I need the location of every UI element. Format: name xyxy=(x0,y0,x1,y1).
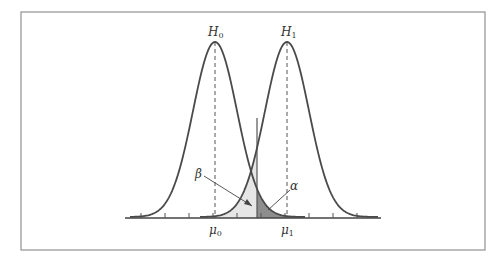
h1-label: H1 xyxy=(280,25,297,40)
mu0-label: μ0 xyxy=(209,223,222,238)
mu1-label: μ1 xyxy=(281,223,294,238)
h0-curve xyxy=(130,42,305,217)
alpha-label: α xyxy=(290,179,298,193)
beta-label: β xyxy=(194,167,202,181)
hypothesis-diagram: H0 H1 β α μ0 μ1 xyxy=(0,0,501,263)
h0-label: H0 xyxy=(207,25,224,40)
